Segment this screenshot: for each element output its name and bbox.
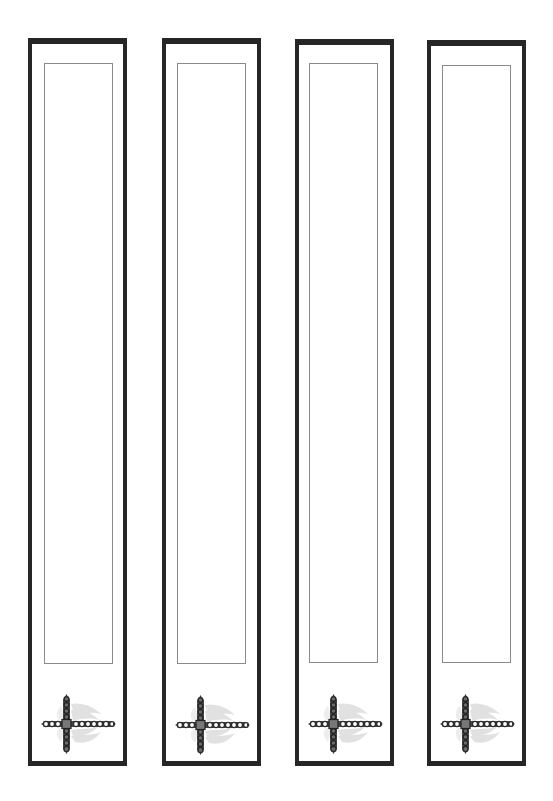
jeweled-cross-icon: [41, 694, 117, 754]
jeweled-cross-icon: [308, 694, 384, 754]
bookmark-2-text: [178, 64, 179, 65]
bookmark-1-text: [45, 64, 46, 65]
bookmark-3-writing-area: [309, 63, 378, 663]
bookmark-2-writing-area: [177, 63, 246, 664]
jeweled-cross-icon: [440, 694, 516, 754]
bookmark-4-writing-area: [442, 65, 511, 663]
bookmark-3-text: [310, 64, 311, 65]
bookmark-4-text: [443, 66, 444, 67]
jeweled-cross-icon: [175, 695, 251, 755]
bookmark-1-writing-area: [44, 63, 113, 664]
